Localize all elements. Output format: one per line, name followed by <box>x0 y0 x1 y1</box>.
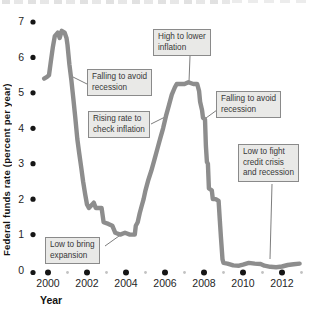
y-tick-dot <box>30 126 35 131</box>
y-tick-dot <box>30 90 35 95</box>
y-tick-dot <box>30 232 35 237</box>
x-axis-title: Year <box>40 294 62 306</box>
callout-high-to-lower-inflation: High to lower inflation <box>153 29 211 56</box>
y-tick-label: 7 <box>8 15 24 27</box>
x-tick-label: 2002 <box>70 277 104 289</box>
annotation-pointer-line <box>270 184 272 259</box>
y-tick-label: 2 <box>8 193 24 205</box>
callout-falling-to-avoid-recession-left: Falling to avoid recession <box>87 69 152 96</box>
callout-low-to-fight-credit-crisis: Low to fight credit crisis and recession <box>238 144 299 182</box>
y-tick-dot <box>30 55 35 60</box>
x-minor-tick-dot <box>105 271 108 274</box>
x-major-tick-dot <box>240 270 246 276</box>
callout-rising-rate-to-check-inflation: Rising rate to check inflation <box>88 111 150 138</box>
y-tick-label: 1 <box>8 228 24 240</box>
x-major-tick-dot <box>279 270 285 276</box>
x-tick-label: 2004 <box>109 277 143 289</box>
x-minor-tick-dot <box>66 271 69 274</box>
y-tick-label: 3 <box>8 157 24 169</box>
y-tick-label: 0 <box>8 264 24 276</box>
x-minor-tick-dot <box>300 271 303 274</box>
x-minor-tick-dot <box>144 271 147 274</box>
callout-low-to-bring-expansion: Low to bring expansion <box>45 237 100 264</box>
x-tick-label: 2010 <box>226 277 260 289</box>
x-major-tick-dot <box>45 270 51 276</box>
annotation-pointer-line <box>189 56 190 82</box>
y-tick-label: 5 <box>8 86 24 98</box>
x-major-tick-dot <box>123 270 129 276</box>
x-minor-tick-dot <box>261 271 264 274</box>
y-tick-label: 6 <box>8 51 24 63</box>
x-minor-tick-dot <box>183 271 186 274</box>
y-tick-dot <box>30 161 35 166</box>
y-tick-label: 4 <box>8 122 24 134</box>
x-minor-tick-dot <box>222 271 225 274</box>
y-tick-dot <box>30 19 35 24</box>
x-major-tick-dot <box>84 270 90 276</box>
x-tick-label: 2008 <box>187 277 221 289</box>
x-tick-label: 2012 <box>265 277 299 289</box>
callout-falling-to-avoid-recession-right: Falling to avoid recession <box>216 91 281 118</box>
chart-figure: Federal funds rate (percent per year) Ye… <box>0 0 313 317</box>
x-major-tick-dot <box>162 270 168 276</box>
y-tick-dot <box>30 270 35 275</box>
y-tick-dot <box>30 197 35 202</box>
annotation-pointer-line <box>105 236 119 246</box>
x-major-tick-dot <box>201 270 207 276</box>
x-tick-label: 2006 <box>148 277 182 289</box>
x-tick-label: 2000 <box>31 277 65 289</box>
